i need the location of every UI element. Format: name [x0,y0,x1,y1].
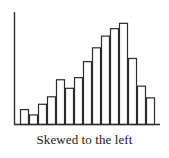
histogram-bar [21,110,29,125]
histogram-bar [138,86,146,124]
histogram-svg [0,0,169,132]
histogram-plot-area [0,0,169,132]
histogram-bar [111,29,119,125]
histogram-bar [102,36,110,124]
histogram-bar [57,80,65,125]
histogram-bar [147,98,155,125]
histogram-bar [120,23,128,124]
figure-caption: Skewed to the left [0,131,169,148]
histogram-bar [30,115,38,125]
histogram-figure: Skewed to the left [0,0,169,158]
histogram-bars [21,23,155,124]
histogram-bar [129,58,137,124]
histogram-bar [93,48,101,125]
histogram-bar [39,104,47,124]
histogram-bar [84,62,92,125]
histogram-bar [48,97,56,125]
histogram-bar [66,88,74,124]
histogram-bar [75,78,83,125]
